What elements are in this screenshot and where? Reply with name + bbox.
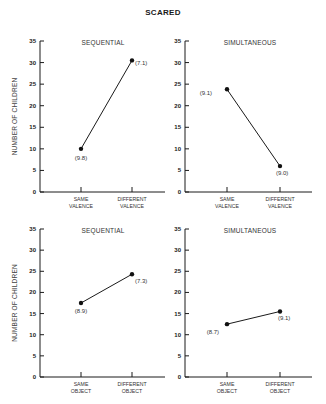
data-point — [225, 87, 229, 91]
data-point — [79, 301, 83, 305]
y-tick-label: 5 — [178, 353, 182, 359]
y-axis-label: NUMBER OF CHILDREN — [11, 264, 18, 342]
y-tick-label: 15 — [29, 311, 36, 317]
panel-title: SEQUENTIAL — [81, 39, 124, 47]
y-tick-label: 35 — [174, 226, 181, 232]
y-tick-label: 10 — [29, 146, 36, 152]
y-tick-label: 10 — [174, 146, 181, 152]
y-tick-label: 20 — [174, 289, 181, 295]
x-tick-label: VALENCE — [120, 203, 144, 209]
y-tick-label: 15 — [174, 311, 181, 317]
point-annotation: (7.1) — [135, 60, 147, 66]
y-tick-label: 5 — [33, 167, 37, 173]
point-annotation: (8.7) — [207, 329, 219, 335]
x-tick-label: DIFFERENT — [117, 196, 147, 202]
y-tick-label: 15 — [174, 124, 181, 130]
data-point — [278, 164, 282, 168]
data-point — [278, 309, 282, 313]
data-point — [130, 272, 134, 276]
point-annotation: (8.9) — [75, 308, 87, 314]
y-tick-label: 10 — [29, 332, 36, 338]
y-tick-label: 35 — [29, 226, 36, 232]
y-tick-label: 5 — [178, 167, 182, 173]
x-tick-label: OBJECT — [122, 388, 143, 394]
x-tick-label: OBJECT — [71, 388, 92, 394]
y-tick-label: 0 — [33, 374, 37, 380]
y-tick-label: 25 — [29, 268, 36, 274]
y-tick-label: 25 — [174, 268, 181, 274]
x-tick-label: DIFFERENT — [265, 196, 295, 202]
y-tick-label: 25 — [174, 81, 181, 87]
y-tick-label: 30 — [174, 60, 181, 66]
data-point — [79, 147, 83, 151]
x-tick-label: SAME — [74, 381, 89, 387]
y-tick-label: 15 — [29, 124, 36, 130]
y-tick-label: 30 — [29, 247, 36, 253]
y-tick-label: 0 — [178, 189, 182, 195]
y-axis-label: NUMBER OF CHILDREN — [11, 78, 18, 156]
x-tick-label: VALENCE — [69, 203, 93, 209]
point-annotation: (9.8) — [75, 155, 87, 161]
data-line — [227, 311, 280, 324]
data-line — [227, 89, 280, 166]
y-tick-label: 35 — [29, 38, 36, 44]
y-tick-label: 20 — [29, 103, 36, 109]
y-tick-label: 0 — [33, 189, 37, 195]
y-tick-label: 30 — [174, 247, 181, 253]
panel-title: SEQUENTIAL — [81, 227, 124, 235]
x-tick-label: VALENCE — [215, 203, 239, 209]
data-point — [130, 58, 134, 62]
x-tick-label: SAME — [220, 381, 235, 387]
y-tick-label: 10 — [174, 332, 181, 338]
y-tick-label: 35 — [174, 38, 181, 44]
x-tick-label: VALENCE — [268, 203, 292, 209]
y-tick-label: 25 — [29, 81, 36, 87]
y-tick-label: 20 — [174, 103, 181, 109]
figure-canvas: 05101520253035SEQUENTIALNUMBER OF CHILDR… — [0, 0, 326, 404]
x-tick-label: OBJECT — [270, 388, 291, 394]
point-annotation: (9.0) — [276, 170, 288, 176]
panel-title: SIMULTANEOUS — [224, 227, 277, 234]
data-line — [81, 274, 132, 303]
x-tick-label: SAME — [74, 196, 89, 202]
y-tick-label: 20 — [29, 289, 36, 295]
data-point — [225, 322, 229, 326]
data-line — [81, 60, 132, 148]
x-tick-label: DIFFERENT — [117, 381, 147, 387]
y-tick-label: 30 — [29, 60, 36, 66]
panel-title: SIMULTANEOUS — [224, 39, 277, 46]
x-tick-label: DIFFERENT — [265, 381, 295, 387]
point-annotation: (9.1) — [278, 315, 290, 321]
x-tick-label: SAME — [220, 196, 235, 202]
y-tick-label: 5 — [33, 353, 37, 359]
point-annotation: (7.3) — [135, 278, 147, 284]
y-tick-label: 0 — [178, 374, 182, 380]
x-tick-label: OBJECT — [217, 388, 238, 394]
point-annotation: (9.1) — [200, 90, 212, 96]
